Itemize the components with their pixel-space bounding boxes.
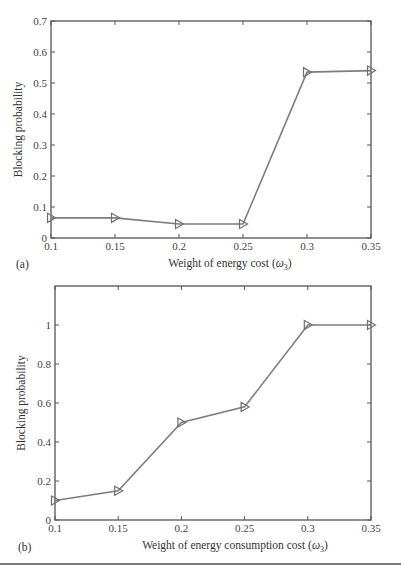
y-tick-label: 0.8 xyxy=(37,358,51,370)
x-tick-label: 0.25 xyxy=(233,240,253,252)
x-tick-label: 0.35 xyxy=(361,240,381,252)
y-tick-label: 0.6 xyxy=(33,46,47,58)
panel-label: (a) xyxy=(16,258,29,271)
x-tick-label: 0.3 xyxy=(301,522,315,534)
x-axis-title: Weight of energy consumption cost (ω3) xyxy=(142,539,328,554)
plot-frame xyxy=(51,21,371,238)
x-tick-label: 0.25 xyxy=(235,522,255,534)
y-tick-label: 0 xyxy=(46,514,52,526)
page-bottom-rule xyxy=(0,563,401,565)
y-tick-label: 0.6 xyxy=(37,397,51,409)
x-tick-label: 0.15 xyxy=(105,240,125,252)
y-tick-label: 0.2 xyxy=(33,170,47,182)
x-tick-label: 0.3 xyxy=(300,240,314,252)
series-line xyxy=(55,325,371,501)
x-tick-label: 0.2 xyxy=(175,522,189,534)
panel-label: (b) xyxy=(18,541,32,554)
y-tick-label: 0.4 xyxy=(33,108,47,120)
y-axis-title: Blocking probability xyxy=(15,355,28,451)
x-tick-label: 0.2 xyxy=(172,240,186,252)
y-tick-label: 0.2 xyxy=(37,475,51,487)
y-tick-label: 0 xyxy=(42,232,48,244)
x-tick-label: 0.35 xyxy=(361,522,381,534)
chart-a-blocking-probability-vs-energy-cost: 0.10.150.20.250.30.3500.10.20.30.40.50.6… xyxy=(12,15,381,272)
chart-b-blocking-probability-vs-energy-consumption-cost: 0.10.150.20.250.30.3500.20.40.60.81Weigh… xyxy=(15,286,381,554)
y-tick-label: 0.3 xyxy=(33,139,47,151)
y-tick-label: 1 xyxy=(46,319,52,331)
x-tick-label: 0.15 xyxy=(109,522,129,534)
series-line xyxy=(51,71,371,224)
y-tick-label: 0.1 xyxy=(33,201,47,213)
x-axis-title: Weight of energy cost (ω3) xyxy=(168,257,292,272)
figure-canvas: 0.10.150.20.250.30.3500.10.20.30.40.50.6… xyxy=(0,0,401,571)
y-tick-label: 0.4 xyxy=(37,436,51,448)
plot-frame xyxy=(55,286,371,520)
y-tick-label: 0.5 xyxy=(33,77,47,89)
y-tick-label: 0.7 xyxy=(33,15,47,27)
y-axis-title: Blocking probability xyxy=(12,82,25,178)
